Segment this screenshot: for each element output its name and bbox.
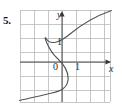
problem-number: 5. (3, 15, 11, 26)
x-axis-label: x (109, 64, 113, 74)
y-axis-label: y (57, 10, 61, 20)
y-axis-tick-label-1: 1 (57, 37, 62, 47)
origin-label: 0 (53, 62, 58, 72)
x-axis-tick-label-1: 1 (75, 62, 80, 72)
grid-lines (20, 10, 110, 102)
graph-figure (18, 8, 112, 104)
figure-panel: 5. (0, 0, 122, 110)
axes (20, 13, 110, 102)
